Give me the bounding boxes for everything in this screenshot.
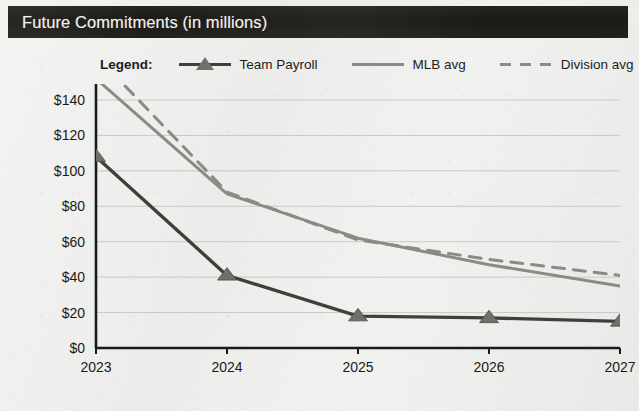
data-point-marker: [87, 149, 106, 162]
y-axis-tick-label: $0: [69, 340, 85, 356]
x-axis-tick-label: 2024: [211, 359, 242, 375]
y-axis-tick-label: $40: [62, 269, 86, 285]
y-axis-tick-label: $20: [62, 305, 86, 321]
series-line-division-avg: [96, 56, 620, 276]
chart-gridlines: [96, 100, 620, 313]
chart-plot-area: $0$20$40$60$80$100$120$140 2023202420252…: [0, 0, 639, 411]
y-axis-tick-labels: $0$20$40$60$80$100$120$140: [54, 92, 85, 356]
x-axis-tick-label: 2026: [473, 359, 504, 375]
chart-series-layer: [87, 56, 630, 326]
y-axis-tick-label: $140: [54, 92, 85, 108]
x-axis-tick-labels: 20232024202520262027: [80, 359, 635, 375]
x-axis-tick-label: 2025: [342, 359, 373, 375]
chart-canvas: $0$20$40$60$80$100$120$140 2023202420252…: [0, 0, 639, 411]
y-axis-tick-label: $100: [54, 163, 85, 179]
y-axis-tick-label: $60: [62, 234, 86, 250]
series-line-mlb-avg: [96, 79, 620, 286]
y-axis-tick-label: $120: [54, 127, 85, 143]
x-axis-tick-label: 2023: [80, 359, 111, 375]
y-axis-tick-label: $80: [62, 198, 86, 214]
x-axis-tick-label: 2027: [604, 359, 635, 375]
